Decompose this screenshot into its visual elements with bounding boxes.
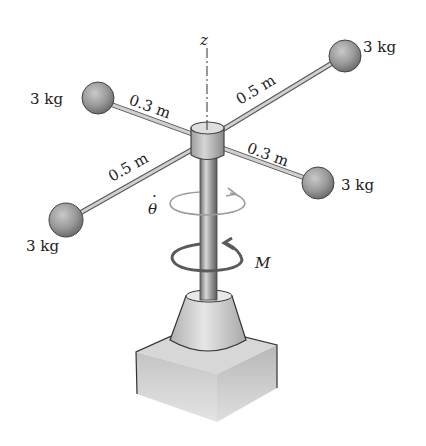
rotating-assembly-diagram: z 3 kg 3 kg 3 kg 3 kg 0.3 m 0.5 m 0.3 m … xyxy=(0,0,426,446)
mass-label-lower-right: 3 kg xyxy=(341,176,374,194)
moment-label: M xyxy=(254,254,271,272)
length-label-lower-left: 0.5 m xyxy=(105,149,151,186)
z-axis-label: z xyxy=(199,31,208,49)
mass-label-upper-left: 3 kg xyxy=(30,90,63,108)
mass-label-upper-right: 3 kg xyxy=(363,38,396,56)
theta-dot-dot: · xyxy=(152,187,157,205)
length-label-upper-right: 0.5 m xyxy=(233,71,279,109)
mass-upper-left xyxy=(82,82,114,114)
mass-upper-right xyxy=(329,40,361,72)
mass-lower-right xyxy=(302,167,334,199)
mass-label-lower-left: 3 kg xyxy=(26,237,59,255)
mass-lower-left xyxy=(49,203,83,237)
shaft xyxy=(200,155,217,300)
